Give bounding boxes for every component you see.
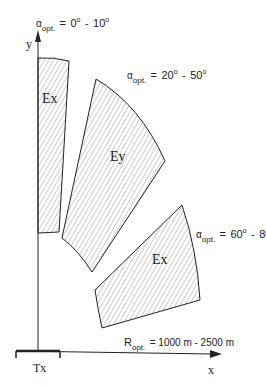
region-ex-0-10 xyxy=(38,58,69,233)
y-axis-label: y xyxy=(26,38,32,50)
y-axis-arrow-icon xyxy=(35,30,41,42)
range-annotation: Ropt. = 1000 m - 2500 m xyxy=(124,333,234,349)
alpha-annotation-1: αopt. = 0o - 10o xyxy=(36,14,109,30)
alpha-annotation-3: αopt. = 60o - 80o xyxy=(196,225,266,241)
x-axis-label: x xyxy=(208,364,214,376)
x-axis-arrow-icon xyxy=(210,350,222,358)
diagram-canvas xyxy=(0,0,266,385)
region-label-ex-2: Ex xyxy=(152,253,168,267)
tx-label: Tx xyxy=(33,362,46,374)
region-label-ey: Ey xyxy=(110,150,126,164)
region-label-ex-1: Ex xyxy=(42,92,58,106)
alpha-annotation-2: αopt. = 20o - 50o xyxy=(127,66,206,82)
